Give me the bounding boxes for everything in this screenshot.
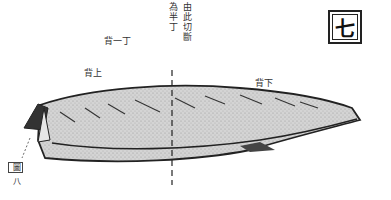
label-back-one-cho: 背一丁 (104, 36, 131, 46)
figure-caption: 圖 八 (8, 162, 23, 186)
figure-caption-number: 八 (11, 177, 20, 186)
figure-caption-char: 圖 (8, 162, 23, 173)
figure-number: 七 (332, 14, 358, 40)
figure-number-badge: 七 (328, 10, 362, 44)
fish-fillet-diagram: 由此切斷 為半丁 背一丁 背上 背下 七 圖 八 (0, 0, 391, 200)
cut-note-left: 為半丁 (168, 2, 178, 32)
label-back-upper: 背上 (84, 68, 102, 78)
label-back-lower: 背下 (255, 78, 273, 88)
cut-note-right: 由此切斷 (182, 2, 192, 42)
